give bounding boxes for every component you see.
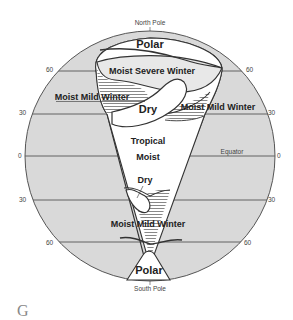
zone-label-moist-mild-winter-east: Moist Mild Winter — [181, 102, 256, 112]
svg-text:Moist Mild Winter: Moist Mild Winter — [55, 92, 130, 102]
lat-label-s30-left: 30 — [19, 196, 27, 203]
north-pole-label: North Pole — [135, 19, 166, 26]
svg-text:Moist Mild Winter: Moist Mild Winter — [181, 102, 256, 112]
lat-label-n30-right: 30 — [268, 109, 276, 116]
zone-label-tropical: Tropical — [131, 136, 166, 146]
lat-label-s60-left: 60 — [46, 239, 54, 246]
figure-letter: G — [17, 302, 29, 319]
lat-label-n30-left: 30 — [19, 109, 27, 116]
zone-label-moist: Moist — [136, 152, 160, 162]
zone-label-north-polar: Polar — [136, 38, 164, 50]
equator-label: Equator — [221, 148, 245, 156]
climate-zones-diagram: North Pole South Pole 60 60 30 30 0 0 30… — [0, 0, 293, 320]
zone-label-moist-severe-winter: Moist Severe Winter — [109, 66, 195, 76]
lat-label-s30-right: 30 — [268, 196, 276, 203]
zone-label-dry-north: Dry — [139, 103, 158, 115]
zone-label-south-polar: Polar — [135, 264, 163, 276]
lat-label-s60-right: 60 — [244, 239, 252, 246]
lat-label-eq-left: 0 — [18, 152, 22, 159]
zone-label-moist-mild-winter-south: Moist Mild Winter — [111, 219, 186, 229]
lat-label-n60-left: 60 — [46, 66, 54, 73]
lat-label-n60-right: 60 — [246, 66, 254, 73]
zone-label-dry-south: Dry — [137, 175, 152, 185]
south-pole-label: South Pole — [134, 285, 166, 292]
lat-label-eq-right: 0 — [277, 152, 281, 159]
